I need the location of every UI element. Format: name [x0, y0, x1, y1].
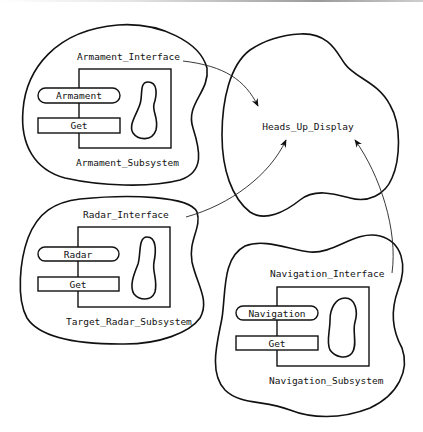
radar-subsystem: Radar_Interface Radar Get Target_Radar_S…	[20, 197, 203, 344]
hud-label: Heads_Up_Display	[262, 121, 354, 132]
armament-subsystem-label: Armament_Subsystem	[76, 157, 179, 168]
radar-subsystem-label: Target_Radar_Subsystem	[66, 316, 192, 327]
navigation-subsystem-label: Navigation_Subsystem	[269, 375, 384, 386]
armament-package-box	[79, 69, 171, 148]
navigation-interface-label: Navigation_Interface	[270, 268, 385, 279]
navigation-get-label: Get	[268, 338, 285, 349]
radar-interface-label: Radar_Interface	[83, 209, 169, 220]
armament-operation-label: Armament	[56, 90, 102, 101]
radar-package-box	[78, 227, 170, 307]
armament-to-hud-arrow	[183, 61, 258, 106]
heads-up-display: Heads_Up_Display	[222, 34, 399, 216]
armament-get-label: Get	[70, 120, 87, 131]
navigation-subsystem: Navigation_Interface Navigation Get Navi…	[215, 235, 404, 416]
armament-interface-label: Armament_Interface	[77, 51, 180, 62]
radar-operation-label: Radar	[64, 249, 93, 260]
radar-to-hud-arrow	[186, 140, 286, 217]
diagram-canvas: Armament_Interface Armament Get Armament…	[0, 0, 423, 432]
navigation-operation-label: Navigation	[248, 308, 305, 319]
navigation-package-box	[277, 287, 369, 366]
radar-get-label: Get	[69, 279, 86, 290]
navigation-to-hud-arrow	[355, 140, 393, 273]
armament-subsystem: Armament_Interface Armament Get Armament…	[23, 25, 208, 185]
